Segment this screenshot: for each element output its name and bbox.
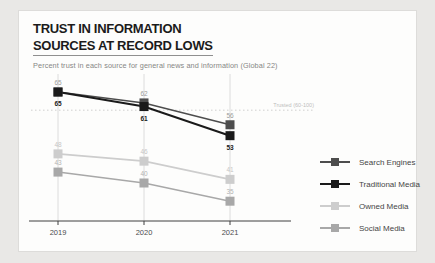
- page: { "window": { "background": "#e9e8e6", "…: [0, 0, 435, 263]
- x-axis-year-label: 2019: [50, 228, 67, 237]
- point-value-label: 35: [226, 188, 234, 195]
- legend-item-owned-media: Owned Media: [320, 199, 420, 213]
- trusted-threshold-label: Trusted (60-100): [273, 102, 314, 108]
- point-value-label: 53: [226, 144, 234, 151]
- legend-marker-square-icon: [320, 158, 350, 166]
- data-point-social-media: [226, 197, 235, 206]
- chart-legend: Search Engines Traditional Media Owned M…: [320, 155, 420, 243]
- legend-label: Search Engines: [359, 158, 415, 167]
- point-value-label: 61: [140, 115, 148, 122]
- legend-label: Owned Media: [359, 202, 408, 211]
- legend-label: Traditional Media: [359, 180, 420, 189]
- chart-title-line2: SOURCES AT RECORD LOWS: [33, 38, 213, 57]
- chart-card: TRUST IN INFORMATION SOURCES AT RECORD L…: [18, 10, 417, 252]
- data-point-traditional-media: [226, 131, 235, 140]
- data-point-owned-media: [54, 149, 63, 158]
- point-value-label: 40: [140, 170, 148, 177]
- data-point-social-media: [54, 168, 63, 177]
- data-point-social-media: [140, 179, 149, 188]
- point-value-label: 48: [54, 141, 62, 148]
- legend-item-search-engines: Search Engines: [320, 155, 420, 169]
- chart-title-line1: TRUST IN INFORMATION: [33, 21, 181, 36]
- legend-marker-square-icon: [320, 202, 350, 210]
- legend-marker-square-icon: [320, 224, 350, 232]
- legend-item-traditional-media: Traditional Media: [320, 177, 420, 191]
- legend-marker-square-icon: [320, 180, 350, 188]
- point-value-label: 65: [54, 79, 62, 86]
- point-value-label: 43: [54, 159, 62, 166]
- chart-header: TRUST IN INFORMATION SOURCES AT RECORD L…: [33, 21, 278, 70]
- chart-title: TRUST IN INFORMATION SOURCES AT RECORD L…: [33, 21, 278, 56]
- x-axis-year-label: 2021: [222, 228, 239, 237]
- x-axis-year-label: 2020: [136, 228, 153, 237]
- data-point-traditional-media: [140, 102, 149, 111]
- data-point-owned-media: [140, 157, 149, 166]
- point-value-label: 41: [226, 166, 234, 173]
- legend-item-social-media: Social Media: [320, 221, 420, 235]
- data-point-owned-media: [226, 175, 235, 184]
- point-value-label: 46: [140, 148, 148, 155]
- chart-subtitle: Percent trust in each source for general…: [33, 61, 278, 70]
- data-point-search-engines: [226, 120, 235, 129]
- point-value-label: 56: [226, 112, 234, 119]
- point-value-label: 65: [54, 100, 62, 107]
- legend-label: Social Media: [359, 224, 405, 233]
- data-point-traditional-media: [54, 88, 63, 97]
- point-value-label: 62: [140, 90, 148, 97]
